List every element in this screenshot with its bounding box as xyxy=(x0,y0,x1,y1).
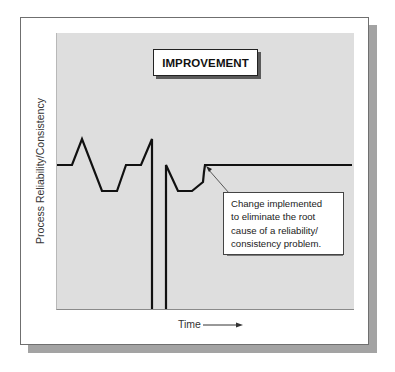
x-axis-label: Time xyxy=(178,318,201,330)
callout-box: Change implemented to eliminate the root… xyxy=(223,192,344,255)
callout-pointer-line xyxy=(208,169,229,193)
pre-change-line xyxy=(57,139,152,309)
callout-line-3: cause of a reliability/ xyxy=(231,224,339,237)
y-axis-label: Process Reliability/Consistency xyxy=(34,98,46,244)
time-arrow-icon xyxy=(236,323,243,328)
callout-line-2: to eliminate the root xyxy=(231,210,339,223)
callout-line-4: consistency problem. xyxy=(231,237,339,250)
diagram-title: IMPROVEMENT xyxy=(153,49,258,76)
callout-line-1: Change implemented xyxy=(231,197,339,210)
callout-arrowhead-icon xyxy=(206,166,212,172)
